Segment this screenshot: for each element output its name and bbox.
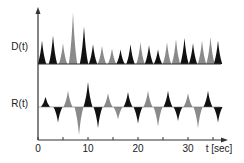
peak	[136, 42, 144, 64]
peak	[144, 91, 153, 107]
peak	[38, 41, 46, 64]
peak	[114, 107, 123, 120]
peak	[145, 45, 153, 64]
peak	[124, 92, 133, 107]
peak	[69, 12, 77, 64]
peak	[108, 48, 116, 64]
peak	[198, 41, 206, 64]
peak	[75, 107, 84, 135]
y-axis-arrow-icon	[36, 7, 41, 14]
peak	[204, 91, 213, 107]
peak	[41, 97, 50, 107]
peak	[163, 42, 171, 64]
x-axis-label: t [sec]	[206, 143, 233, 154]
peak	[164, 91, 173, 107]
peak	[89, 44, 97, 64]
tick-label-30: 30	[182, 143, 194, 154]
peak	[98, 46, 106, 64]
peak	[184, 93, 193, 107]
peak	[94, 107, 103, 128]
tick-label-0: 0	[35, 143, 41, 154]
tick-label-20: 20	[132, 143, 144, 154]
peak	[214, 107, 223, 122]
peak	[206, 37, 214, 64]
peak	[134, 107, 143, 124]
d-series-label: D(t)	[11, 41, 28, 52]
peak	[59, 43, 67, 64]
peak	[154, 107, 163, 127]
peak	[84, 82, 93, 107]
chart: D(t) R(t) 0 10 20 30 t [sec]	[0, 0, 244, 163]
d-series-panel	[38, 12, 222, 64]
peak	[80, 27, 88, 64]
r-series-label: R(t)	[11, 98, 28, 109]
tick-label-10: 10	[82, 143, 94, 154]
peak	[116, 49, 124, 64]
peak	[180, 38, 188, 64]
peak	[104, 93, 113, 107]
peak	[214, 41, 222, 64]
x-axis-arrow-icon	[221, 138, 228, 143]
peak	[189, 43, 197, 64]
peak	[126, 44, 134, 64]
peak	[154, 49, 162, 64]
peak	[64, 91, 73, 107]
peak	[172, 39, 180, 64]
peak	[54, 107, 63, 122]
peak	[194, 107, 203, 128]
peak	[49, 35, 57, 64]
peak	[174, 107, 183, 121]
r-series-panel	[41, 82, 223, 135]
